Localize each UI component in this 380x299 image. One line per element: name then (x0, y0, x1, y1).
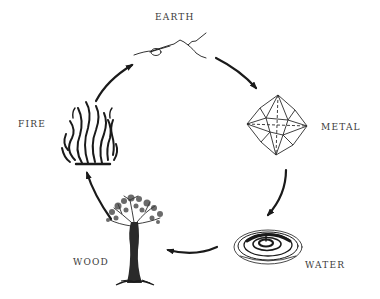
arrow-water-to-wood (168, 247, 217, 253)
arrow-fire-to-earth (96, 65, 132, 101)
earth-label: EARTH (155, 12, 195, 22)
tree-icon (106, 195, 163, 286)
water-label: WATER (305, 260, 345, 270)
crystal-icon (247, 95, 307, 155)
fire-label: FIRE (18, 119, 46, 129)
cycle-graphic (0, 0, 380, 299)
five-elements-diagram: EARTH METAL WATER WOOD FIRE (0, 0, 380, 299)
metal-label: METAL (321, 122, 361, 132)
wood-label: WOOD (73, 257, 109, 267)
arrow-wood-to-fire (87, 173, 111, 219)
mountain-icon (134, 33, 206, 58)
arrow-earth-to-metal (216, 58, 256, 88)
arrow-metal-to-water (268, 170, 286, 215)
flame-icon (62, 102, 117, 164)
ripple-icon (234, 230, 302, 264)
